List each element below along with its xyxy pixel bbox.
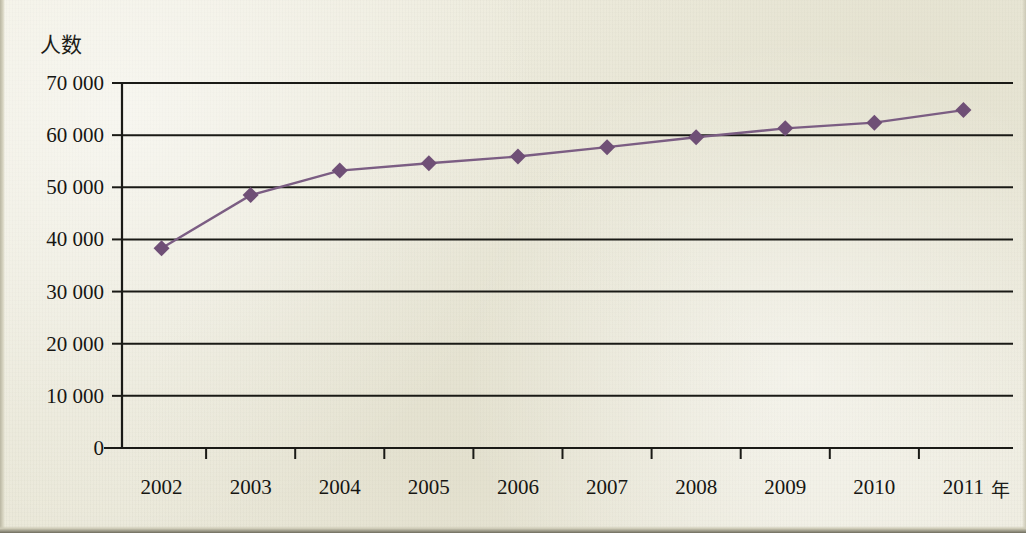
- y-axis-title: 人数: [40, 33, 82, 57]
- y-tick-label: 20 000: [46, 332, 104, 356]
- y-tick-label: 50 000: [46, 175, 104, 199]
- data-point-marker: [154, 240, 170, 256]
- data-point-marker: [599, 139, 615, 155]
- chart-page: 人数 010 00020 00030 00040 00050 00060 000…: [0, 0, 1026, 533]
- scan-edge-right: [1022, 0, 1026, 533]
- line-chart: 人数 010 00020 00030 00040 00050 00060 000…: [0, 0, 1026, 533]
- y-tick-label: 40 000: [46, 227, 104, 251]
- x-tick-label: 2007: [586, 475, 628, 499]
- y-tick-label: 60 000: [46, 123, 104, 147]
- data-point-marker: [510, 149, 526, 165]
- x-tick-labels: 2002200320042005200620072008200920102011: [141, 475, 985, 499]
- data-point-marker: [866, 115, 882, 131]
- x-tick-label: 2003: [230, 475, 272, 499]
- y-tick-label: 70 000: [46, 71, 104, 95]
- x-tick-label: 2011: [943, 475, 984, 499]
- y-tick-label: 30 000: [46, 280, 104, 304]
- x-tick-label: 2008: [675, 475, 717, 499]
- data-point-marker: [332, 163, 348, 179]
- data-point-marker: [777, 120, 793, 136]
- scan-edge-left: [0, 0, 5, 533]
- data-point-marker: [421, 155, 437, 171]
- x-axis-ticks: [206, 448, 919, 459]
- y-tick-label: 0: [94, 436, 105, 460]
- x-tick-label: 2004: [319, 475, 362, 499]
- x-tick-label: 2009: [764, 475, 806, 499]
- data-point-marker: [955, 102, 971, 118]
- x-tick-label: 2006: [497, 475, 539, 499]
- y-gridlines: [122, 83, 1013, 396]
- scan-edge-bottom: [0, 526, 1026, 533]
- y-tick-labels: 010 00020 00030 00040 00050 00060 00070 …: [46, 71, 122, 460]
- data-point-marker: [688, 129, 704, 145]
- x-axis-unit-label: 年: [991, 479, 1010, 501]
- x-tick-label: 2002: [141, 475, 183, 499]
- x-tick-label: 2010: [853, 475, 895, 499]
- x-tick-label: 2005: [408, 475, 450, 499]
- y-tick-label: 10 000: [46, 384, 104, 408]
- data-point-marker: [243, 187, 259, 203]
- data-series-line: [162, 110, 964, 248]
